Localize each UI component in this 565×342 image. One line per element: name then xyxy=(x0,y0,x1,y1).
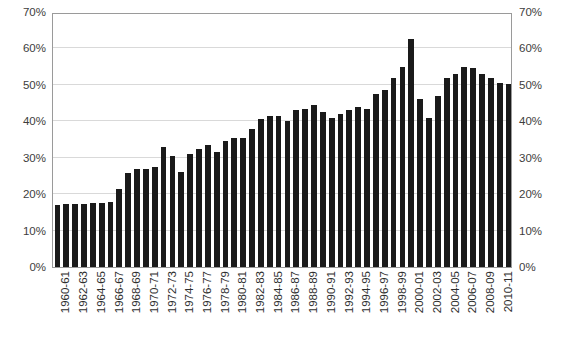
x-axis-tick-label: 1976-77 xyxy=(202,271,213,313)
bar xyxy=(444,78,450,267)
bar xyxy=(63,204,69,267)
x-axis-tick-label: 1964-65 xyxy=(96,271,107,313)
bar xyxy=(408,39,414,267)
x-axis-tick-label: 1972-73 xyxy=(167,271,178,313)
bar xyxy=(346,110,352,267)
bar xyxy=(426,118,432,267)
y-axis-tick-label: 20% xyxy=(519,189,542,200)
x-axis-tick-label: 2006-07 xyxy=(467,271,478,313)
bar xyxy=(320,112,326,267)
y-axis-tick-label: 50% xyxy=(519,80,542,91)
y-axis-tick-label: 70% xyxy=(519,7,542,18)
x-axis-tick-label: 1998-99 xyxy=(397,271,408,313)
bar xyxy=(285,121,291,267)
x-axis-tick-label: 1968-69 xyxy=(131,271,142,313)
bar xyxy=(223,141,229,267)
bar xyxy=(329,118,335,267)
x-axis-tick-label: 1974-75 xyxy=(184,271,195,313)
bar xyxy=(391,78,397,267)
bar xyxy=(170,156,176,267)
bar xyxy=(338,114,344,267)
y-axis-tick-label: 60% xyxy=(23,43,46,54)
x-axis-tick-label: 2002-03 xyxy=(432,271,443,313)
x-axis-tick-label: 1986-87 xyxy=(290,271,301,313)
bar xyxy=(214,152,220,267)
bar xyxy=(311,105,317,267)
x-axis-tick-label: 2000-01 xyxy=(414,271,425,313)
bar xyxy=(267,116,273,267)
x-axis-tick-label: 2004-05 xyxy=(450,271,461,313)
bar xyxy=(435,96,441,267)
bar xyxy=(373,94,379,267)
bar xyxy=(497,83,503,267)
bar xyxy=(231,138,237,267)
y-axis-tick-label: 10% xyxy=(23,226,46,237)
bar-series xyxy=(53,14,511,267)
bar xyxy=(187,154,193,267)
bar xyxy=(506,84,512,267)
bar xyxy=(488,78,494,267)
x-axis-tick-label: 1992-93 xyxy=(344,271,355,313)
bar xyxy=(382,90,388,267)
y-axis-tick-label: 40% xyxy=(23,116,46,127)
bar xyxy=(143,169,149,267)
bar xyxy=(161,147,167,267)
x-axis-tick-label: 1996-97 xyxy=(379,271,390,313)
bar xyxy=(355,107,361,267)
x-axis-tick-label: 1970-71 xyxy=(149,271,160,313)
x-axis-tick-label: 2008-09 xyxy=(485,271,496,313)
bar xyxy=(417,99,423,267)
x-axis-tick-label: 1960-61 xyxy=(60,271,71,313)
x-axis-tick-label: 1994-95 xyxy=(361,271,372,313)
y-axis-tick-label: 10% xyxy=(519,226,542,237)
x-axis-tick-label: 1962-63 xyxy=(78,271,89,313)
bar xyxy=(276,116,282,267)
plot-area xyxy=(52,13,512,268)
bar xyxy=(461,67,467,267)
y-axis-tick-label: 60% xyxy=(519,43,542,54)
bar xyxy=(205,145,211,267)
bar xyxy=(55,205,61,267)
x-axis-tick-label: 1982-83 xyxy=(255,271,266,313)
bar xyxy=(134,169,140,267)
bar xyxy=(196,149,202,267)
bar xyxy=(293,110,299,267)
x-axis-tick-label: 1978-79 xyxy=(220,271,231,313)
bar xyxy=(108,202,114,267)
bar xyxy=(90,203,96,267)
x-axis-tick-label: 1980-81 xyxy=(237,271,248,313)
bar xyxy=(400,67,406,267)
bar xyxy=(258,119,264,267)
bar xyxy=(178,172,184,267)
bar xyxy=(125,173,131,267)
bar xyxy=(364,109,370,267)
y-axis-tick-label: 70% xyxy=(23,7,46,18)
y-axis-tick-label: 30% xyxy=(23,153,46,164)
y-axis-tick-label: 40% xyxy=(519,116,542,127)
y-axis-tick-label: 50% xyxy=(23,80,46,91)
x-axis-tick-label: 1966-67 xyxy=(114,271,125,313)
bar xyxy=(479,74,485,267)
bar-chart: 0%10%20%30%40%50%60%70% 0%10%20%30%40%50… xyxy=(0,0,565,342)
bar xyxy=(453,74,459,267)
bar xyxy=(152,167,158,267)
bar xyxy=(81,204,87,267)
x-axis-tick-label: 1984-85 xyxy=(273,271,284,313)
bar xyxy=(99,203,105,267)
bar xyxy=(302,109,308,267)
x-axis-tick-label: 1990-91 xyxy=(326,271,337,313)
x-axis-labels: 1960-611962-631964-651966-671968-691970-… xyxy=(0,271,565,342)
x-axis-tick-label: 2010-11 xyxy=(503,271,514,312)
bar xyxy=(249,129,255,267)
bar xyxy=(116,189,122,267)
y-axis-tick-label: 20% xyxy=(23,189,46,200)
bar xyxy=(240,138,246,267)
x-axis-tick-label: 1988-89 xyxy=(308,271,319,313)
bar xyxy=(470,68,476,267)
bar xyxy=(72,204,78,267)
y-axis-tick-label: 30% xyxy=(519,153,542,164)
